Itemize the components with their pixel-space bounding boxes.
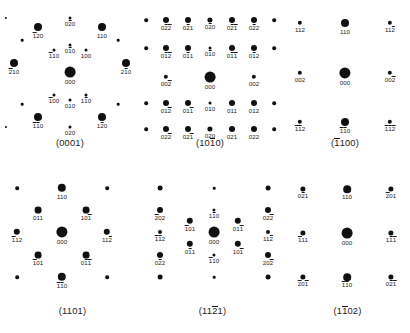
spot-index-label: 011 — [227, 53, 238, 60]
spot-index-label: 110 — [209, 258, 220, 265]
spot-index-label: 111 — [298, 237, 308, 244]
diffraction-spot — [69, 17, 72, 20]
spot-index-label: 012 — [249, 108, 260, 115]
spot-index-label: 110 — [340, 128, 351, 135]
diffraction-spot — [272, 46, 276, 50]
diffraction-spot — [185, 45, 191, 51]
diffraction-spot — [251, 17, 257, 23]
spot-index-label: 022 — [249, 25, 260, 32]
diffraction-spot — [58, 273, 66, 281]
spot-index-label: 012 — [161, 53, 172, 60]
spot-index-label: 011 — [183, 53, 194, 60]
spot-index-label: 011 — [233, 226, 244, 233]
spot-index-label: 202 — [263, 260, 274, 267]
diffraction-spot — [251, 100, 257, 106]
diffraction-spot — [158, 230, 162, 234]
diffraction-spot — [265, 207, 271, 213]
diffraction-spot — [163, 100, 169, 106]
spot-index-label: 010 — [65, 103, 76, 110]
diffraction-spot — [157, 252, 163, 258]
diffraction-spot — [69, 44, 72, 47]
spot-index-label: 012 — [161, 108, 172, 115]
spot-index-label: 112 — [102, 237, 112, 244]
spot-index-label: 120 — [97, 123, 108, 130]
diffraction-spot — [229, 100, 235, 106]
spot-index-label: 021 — [183, 25, 194, 32]
diffraction-spot — [252, 75, 256, 79]
spot-index-label: 000 — [57, 239, 68, 246]
diffraction-spot — [5, 17, 7, 19]
diffraction-spot — [98, 113, 106, 121]
spot-index-label: 002 — [295, 77, 306, 84]
panel-caption: (1101) — [0, 306, 145, 316]
spot-index-label: 112 — [12, 237, 23, 244]
spot-index-label: 112 — [295, 27, 305, 34]
spot-index-label: 010 — [205, 106, 216, 113]
diffraction-spot — [10, 59, 18, 67]
diffraction-spot — [15, 186, 19, 190]
diffraction-spot — [144, 101, 148, 105]
diffraction-spot — [272, 18, 276, 22]
spot-index-label: 002 — [249, 81, 260, 88]
diffraction-spot — [212, 208, 215, 211]
spot-index-label: 112 — [155, 236, 166, 243]
spot-index-label: 100 — [81, 53, 92, 60]
diffraction-spot — [209, 227, 220, 238]
diffraction-spot — [343, 273, 351, 281]
diffraction-spot — [388, 120, 392, 124]
diffraction-spot — [163, 126, 169, 132]
spot-index-label: 112 — [385, 126, 396, 133]
spot-index-label: 011 — [81, 260, 92, 267]
diffraction-spot — [187, 241, 193, 247]
diffraction-spot — [117, 103, 120, 106]
diffraction-spot — [298, 120, 302, 124]
spot-index-label: 201 — [386, 193, 397, 200]
diffraction-spot — [85, 49, 88, 52]
diffraction-spot — [85, 94, 88, 97]
diffraction-spot — [144, 46, 148, 50]
panel-0001: 0001201102102101101200200101101001001100… — [0, 0, 140, 165]
diffraction-spot — [272, 127, 276, 131]
spot-index-label: 000 — [342, 240, 353, 247]
diffraction-spot — [342, 228, 353, 239]
spot-index-label: 101 — [233, 249, 244, 256]
diffraction-spot — [209, 47, 212, 50]
diffraction-spot — [298, 21, 302, 25]
diffraction-spot — [35, 207, 42, 214]
diffraction-spot — [58, 184, 66, 192]
diffraction-spot — [122, 59, 130, 67]
spot-index-label: 022 — [155, 260, 166, 267]
diffraction-spot — [144, 18, 148, 22]
diffraction-spot — [388, 274, 393, 279]
spot-index-label: 120 — [33, 33, 44, 40]
diffraction-spot — [266, 230, 270, 234]
diffraction-spot — [272, 101, 276, 105]
diffraction-spot — [164, 75, 168, 79]
spot-index-label: 002 — [161, 81, 172, 88]
diffraction-spot — [235, 241, 241, 247]
diffraction-spot — [53, 49, 56, 52]
spot-index-label: 011 — [33, 215, 43, 222]
spot-index-label: 101 — [185, 226, 196, 233]
diffraction-spot — [83, 207, 90, 214]
spot-index-label: 112 — [263, 236, 273, 243]
diffraction-spot — [157, 207, 163, 213]
spot-index-label: 011 — [183, 108, 194, 115]
diffraction-spot — [251, 45, 257, 51]
diffraction-spot — [207, 126, 212, 131]
panel-caption: (1100) — [280, 138, 410, 148]
diffraction-spot — [105, 275, 109, 279]
diffraction-spot — [98, 23, 106, 31]
diffraction-spot — [229, 45, 235, 51]
spot-index-label: 112 — [295, 126, 306, 133]
spot-index-label: 010 — [65, 48, 76, 55]
spot-index-label: 201 — [298, 281, 309, 288]
diffraction-pattern-figure: 0001201102102101101200200101101001001100… — [0, 0, 410, 333]
diffraction-spot — [341, 19, 349, 27]
panel-caption: (0001) — [0, 138, 140, 148]
spot-index-label: 021 — [227, 25, 238, 32]
diffraction-spot — [34, 23, 42, 31]
spot-index-label: 100 — [49, 98, 60, 105]
spot-index-label: 000 — [340, 80, 351, 87]
spot-index-label: 101 — [81, 215, 92, 222]
